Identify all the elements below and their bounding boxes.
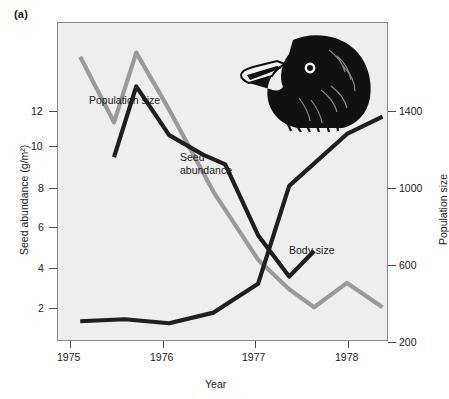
tickmark-seed-12	[49, 111, 57, 112]
ytick-seed-8: 8	[38, 182, 44, 194]
tickmark-year-1975	[70, 341, 71, 348]
tickmark-seed-8	[49, 188, 57, 189]
tickmark-population-600	[388, 265, 396, 266]
ytick-seed-12: 12	[31, 105, 43, 117]
annotation-body-size: Body size	[289, 244, 335, 257]
tickmark-population-1400	[388, 111, 396, 112]
annotation-seed-abundance-line2: abundance	[180, 164, 232, 176]
tickmark-seed-10	[49, 146, 57, 147]
plot-area: Population size Seed abundance Body size	[57, 22, 388, 341]
axis-title-year: Year	[205, 378, 226, 390]
ytick-population-1000: 1000	[399, 182, 422, 194]
ytick-seed-10: 10	[31, 140, 43, 152]
axis-title-population-size: Population size	[437, 174, 449, 245]
tickmark-population-1000	[388, 188, 396, 189]
tickmark-year-1978	[348, 341, 349, 348]
tickmark-seed-2	[49, 308, 57, 309]
panel-label: (a)	[14, 8, 28, 20]
ytick-population-600: 600	[399, 259, 417, 271]
ytick-seed-4: 4	[38, 262, 44, 274]
darwins-finch-head-icon	[233, 28, 381, 132]
ytick-population-1400: 1400	[399, 105, 422, 117]
ytick-seed-6: 6	[38, 221, 44, 233]
ytick-population-200: 200	[399, 336, 417, 348]
tickmark-year-1977	[255, 341, 256, 348]
xtick-1976: 1976	[150, 351, 173, 363]
ytick-seed-2: 2	[38, 302, 44, 314]
xtick-1977: 1977	[242, 351, 265, 363]
xtick-1978: 1978	[335, 351, 358, 363]
annotation-seed-abundance: Seed abundance	[180, 151, 232, 176]
tickmark-year-1976	[163, 341, 164, 348]
tickmark-population-200	[388, 342, 396, 343]
tickmark-seed-6	[49, 227, 57, 228]
annotation-seed-abundance-line1: Seed	[180, 151, 205, 163]
axis-title-seed-abundance: Seed abundance (g/m²)	[18, 145, 30, 255]
tickmark-seed-4	[49, 268, 57, 269]
annotation-population-size: Population size	[89, 94, 160, 107]
xtick-1975: 1975	[57, 351, 80, 363]
